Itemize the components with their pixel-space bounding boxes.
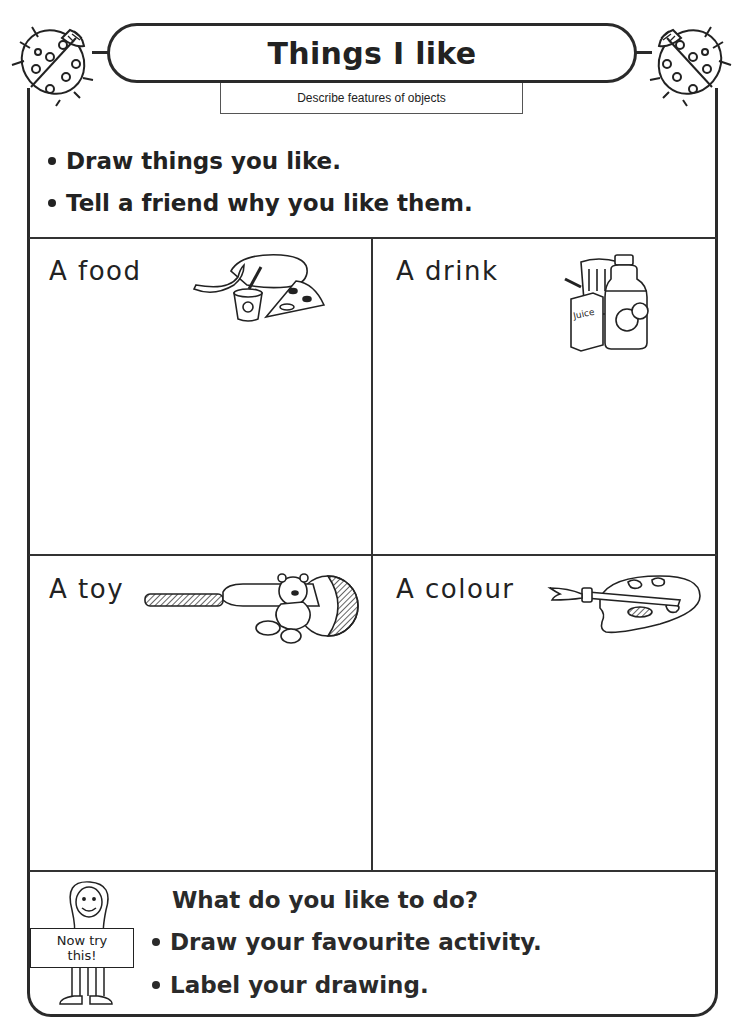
instruction-text: Tell a friend why you like them. [66, 190, 473, 216]
drawing-area-food[interactable]: A food [29, 239, 371, 554]
bullet-icon [48, 157, 56, 165]
bullet-icon [48, 199, 56, 207]
bottom-item-text: Draw your favourite activity. [170, 929, 542, 955]
toy-icon [143, 566, 365, 646]
drawing-area-colour[interactable]: A colour [373, 556, 717, 870]
subtitle-box: Describe features of objects [220, 83, 523, 114]
sign-board: Now try this! [30, 928, 134, 968]
instruction-text: Draw things you like. [66, 148, 341, 174]
drink-icon: Juice [563, 247, 663, 352]
bullet-icon [152, 938, 160, 946]
bottom-item: Draw your favourite activity. [152, 929, 542, 955]
food-icon [189, 249, 329, 324]
title-banner: Things I like [107, 23, 637, 83]
ladybird-icon [8, 12, 98, 102]
sign-line-2: this! [31, 948, 133, 963]
bottom-item-text: Label your drawing. [170, 972, 429, 998]
now-try-this-character: Now try this! [30, 880, 140, 1010]
drawing-area-toy[interactable]: A toy [29, 556, 371, 870]
title-connector [636, 51, 652, 54]
divider [29, 870, 717, 872]
cell-label: A colour [396, 574, 515, 604]
page-title: Things I like [268, 36, 477, 71]
sign-line-1: Now try [31, 933, 133, 948]
subtitle: Describe features of objects [297, 91, 446, 105]
paint-palette-icon [548, 574, 703, 636]
drawing-area-drink[interactable]: A drink Juice [373, 239, 717, 554]
cell-label: A drink [396, 256, 499, 286]
bottom-question: What do you like to do? [172, 887, 478, 913]
bullet-icon [152, 981, 160, 989]
instruction-item: Tell a friend why you like them. [48, 190, 473, 216]
cell-label: A food [49, 256, 142, 286]
ladybird-icon [645, 12, 735, 102]
title-connector [92, 51, 108, 54]
instruction-item: Draw things you like. [48, 148, 341, 174]
cell-label: A toy [49, 574, 124, 604]
bottom-item: Label your drawing. [152, 972, 429, 998]
